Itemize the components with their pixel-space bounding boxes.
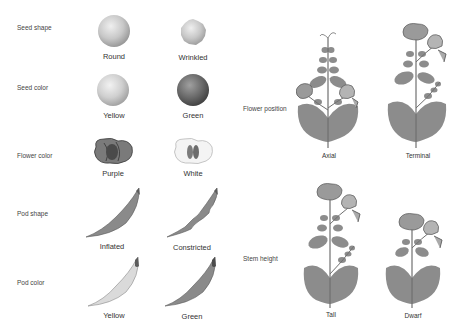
caption-pod-green: Green <box>162 312 222 321</box>
trait-label-flower-color: Flower color <box>17 152 52 159</box>
trait-label-seed-color: Seed color <box>17 84 48 91</box>
caption-inflated: Inflated <box>82 242 142 251</box>
caption-round: Round <box>84 52 144 61</box>
seed-green-image <box>176 73 210 107</box>
caption-seed-yellow: Yellow <box>84 111 144 120</box>
trait-label-stem-height: Stem height <box>243 255 278 262</box>
trait-label-seed-shape: Seed shape <box>17 24 52 31</box>
pod-green-image <box>163 256 219 308</box>
flower-white-image <box>172 137 214 165</box>
caption-purple: Purple <box>83 169 143 178</box>
pod-constricted-image <box>163 187 221 239</box>
plant-axial-image <box>296 30 360 148</box>
plant-dwarf-image <box>384 212 446 308</box>
trait-label-pod-shape: Pod shape <box>17 210 48 217</box>
plant-tall-image <box>302 180 364 308</box>
caption-dwarf: Dwarf <box>383 312 443 319</box>
flower-purple-image <box>92 137 134 165</box>
pod-yellow-image <box>86 256 142 308</box>
caption-constricted: Constricted <box>162 243 222 252</box>
seed-wrinkled-image <box>179 18 207 46</box>
seed-yellow-image <box>96 73 130 107</box>
plant-terminal-image <box>386 22 452 148</box>
seed-round-image <box>97 14 131 48</box>
caption-wrinkled: Wrinkled <box>163 53 223 62</box>
pod-inflated-image <box>84 187 142 239</box>
caption-terminal: Terminal <box>388 152 448 159</box>
caption-white: White <box>163 169 223 178</box>
caption-seed-green: Green <box>163 111 223 120</box>
caption-axial: Axial <box>299 152 359 159</box>
trait-label-flower-position: Flower position <box>243 105 287 112</box>
trait-label-pod-color: Pod color <box>17 279 44 286</box>
caption-pod-yellow: Yellow <box>84 311 144 320</box>
caption-tall: Tall <box>301 311 361 318</box>
